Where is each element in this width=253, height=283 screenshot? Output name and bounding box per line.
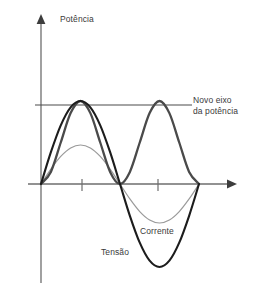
novo-eixo-line-2: da potência — [193, 106, 238, 116]
power-curve — [41, 101, 199, 184]
novo-eixo-line-1: Novo eixo — [193, 95, 232, 105]
label-novo-eixo-da-potencia: Novo eixoda potência — [193, 95, 238, 117]
waveform-plot — [0, 0, 253, 283]
label-tensao: Tensão — [101, 247, 129, 258]
x-axis-arrow-icon — [227, 180, 237, 189]
power-voltage-current-figure: Potência Novo eixoda potência Corrente T… — [0, 0, 253, 283]
label-potencia: Potência — [60, 14, 94, 25]
label-corrente: Corrente — [140, 226, 174, 237]
y-axis-arrow-icon — [37, 14, 46, 24]
